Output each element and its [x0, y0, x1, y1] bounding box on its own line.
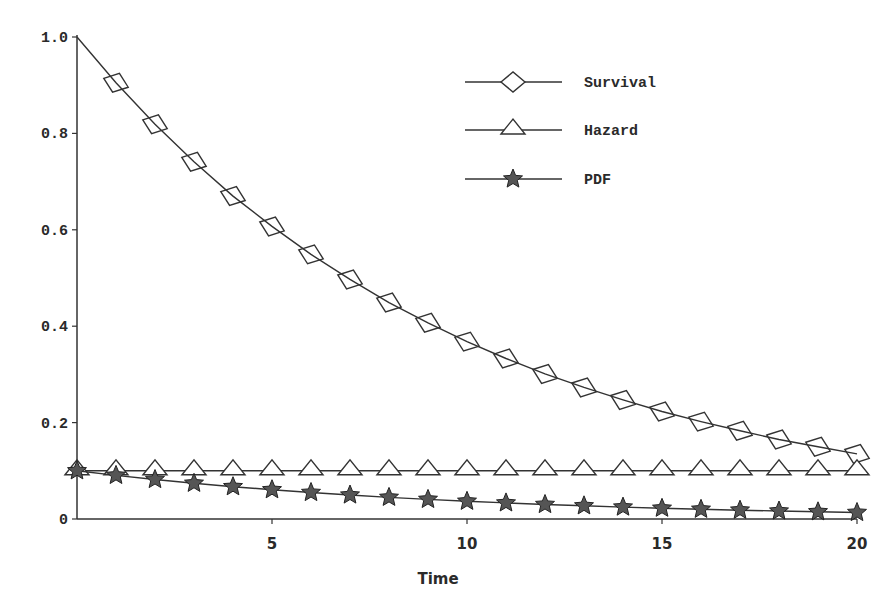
y-tick-label: 0.4	[41, 319, 68, 336]
star-marker	[263, 480, 282, 498]
triangle-marker	[221, 460, 245, 475]
series-group	[65, 37, 873, 521]
legend-label: Survival	[584, 75, 656, 92]
star-marker	[185, 473, 204, 491]
x-axis-label: Time	[417, 570, 458, 588]
triangle-marker	[728, 460, 752, 475]
x-tick-label: 10	[457, 535, 478, 553]
star-marker	[653, 498, 672, 516]
star-marker	[458, 491, 477, 509]
triangle-marker	[533, 460, 557, 475]
legend-item-hazard: Hazard	[465, 119, 638, 140]
y-tick-label: 0.6	[41, 223, 68, 240]
triangle-marker	[806, 460, 830, 475]
y-tick-label: 0.2	[41, 416, 68, 433]
triangle-marker	[650, 460, 674, 475]
series-hazard	[65, 460, 869, 475]
star-marker	[536, 495, 555, 513]
triangle-marker	[494, 460, 518, 475]
star-marker	[380, 487, 399, 505]
legend: SurvivalHazardPDF	[465, 72, 656, 189]
star-marker	[770, 501, 789, 519]
triangle-marker	[455, 460, 479, 475]
star-marker	[731, 500, 750, 518]
y-tick-label: 1.0	[41, 30, 68, 47]
star-marker	[692, 499, 711, 517]
triangle-marker	[767, 460, 791, 475]
x-tick-label: 20	[847, 535, 868, 553]
triangle-marker	[338, 460, 362, 475]
triangle-marker	[611, 460, 635, 475]
star-marker	[575, 496, 594, 514]
chart-container: 00.20.40.60.81.05101520 SurvivalHazardPD…	[0, 0, 892, 611]
triangle-marker	[572, 460, 596, 475]
series-survival	[77, 37, 873, 468]
y-tick-label: 0.8	[41, 126, 68, 143]
star-marker	[302, 483, 321, 501]
triangle-marker	[416, 460, 440, 475]
triangle-icon	[501, 119, 525, 134]
triangle-marker	[260, 460, 284, 475]
legend-item-pdf: PDF	[465, 169, 611, 189]
line-chart: 00.20.40.60.81.05101520 SurvivalHazardPD…	[0, 0, 892, 611]
star-icon	[504, 169, 523, 187]
triangle-marker	[845, 460, 869, 475]
x-tick-label: 5	[267, 535, 277, 553]
y-tick-label: 0	[59, 512, 68, 529]
star-marker	[809, 502, 828, 520]
series-line	[77, 37, 857, 454]
legend-label: Hazard	[584, 123, 638, 140]
star-marker	[497, 493, 516, 511]
triangle-marker	[299, 460, 323, 475]
triangle-marker	[689, 460, 713, 475]
star-marker	[848, 503, 867, 521]
star-marker	[224, 477, 243, 495]
star-marker	[614, 497, 633, 515]
x-tick-label: 15	[652, 535, 673, 553]
diamond-icon	[501, 72, 525, 92]
star-marker	[419, 489, 438, 507]
legend-label: PDF	[584, 172, 611, 189]
triangle-marker	[377, 460, 401, 475]
legend-item-survival: Survival	[465, 72, 656, 92]
star-marker	[341, 485, 360, 503]
